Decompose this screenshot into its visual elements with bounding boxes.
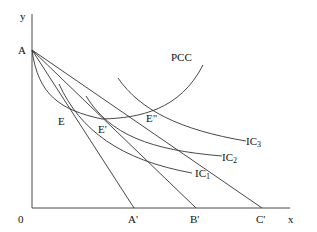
indifference-curve-ic3 <box>118 78 246 141</box>
budget-line-AB <box>32 50 196 208</box>
ic3-label: IC3 <box>246 136 261 149</box>
x-axis-label: x <box>288 214 294 225</box>
point-E-double-prime-label: E" <box>146 113 157 124</box>
ic1-sub: 1 <box>206 172 210 181</box>
point-C-prime-label: C' <box>256 214 265 225</box>
point-A-label: A <box>18 45 26 56</box>
ic1-label: IC1 <box>195 168 210 181</box>
point-E-prime-label: E' <box>98 124 107 135</box>
ic2-label: IC2 <box>222 152 237 165</box>
y-axis-label: y <box>20 11 26 22</box>
ic2-sub: 2 <box>233 156 237 165</box>
ic2-base: IC <box>222 151 233 163</box>
diagram-graphics <box>0 0 317 232</box>
ic3-sub: 3 <box>257 140 261 149</box>
point-E-label: E <box>58 116 65 127</box>
ic3-base: IC <box>246 135 257 147</box>
point-B-prime-label: B' <box>190 214 199 225</box>
indifference-curve-ic1 <box>59 84 192 173</box>
origin-label: 0 <box>18 214 24 225</box>
pcc-label: PCC <box>171 52 192 63</box>
point-A-prime-label: A' <box>128 214 138 225</box>
ic1-base: IC <box>195 167 206 179</box>
price-consumption-curve-diagram: y x 0 A A' B' C' E E' E" PCC IC3 IC2 IC1 <box>0 0 317 232</box>
budget-line-AC <box>32 50 262 208</box>
